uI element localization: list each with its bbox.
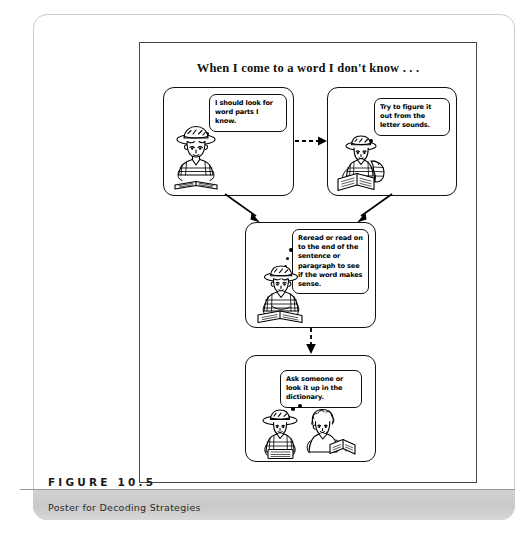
page-title: When I come to a word I don't know . . . [140, 61, 476, 76]
comic-panel-2: Try to figure it out from the letter sou… [327, 87, 457, 196]
figure-number: FIGURE 10.5 [48, 476, 156, 488]
poster-frame: When I come to a word I don't know . . .… [139, 42, 477, 483]
character-child-seated-reading-icon [254, 265, 320, 327]
page-card: When I come to a word I don't know . . .… [33, 14, 515, 520]
character-child-with-backpack-reading-icon [335, 135, 403, 193]
character-boy-reading-book-icon [169, 125, 231, 193]
comic-panel-1: I should look for word parts I know. [163, 87, 294, 196]
speech-bubble-2: Try to figure it out from the letter sou… [374, 98, 450, 136]
figure-caption: Poster for Decoding Strategies [48, 502, 201, 513]
speech-bubble-4: Ask someone or look it up in the diction… [280, 370, 362, 408]
arrow-panel1-to-panel2-icon [294, 133, 328, 149]
caption-divider [20, 489, 515, 490]
arrow-panel1-to-panel3-icon [224, 193, 270, 226]
arrow-panel3-to-panel4-icon [303, 327, 319, 357]
comic-panel-4: Ask someone or look it up in the diction… [245, 355, 376, 462]
thought-dot [286, 257, 289, 260]
arrow-panel2-to-panel3-icon [347, 193, 393, 226]
character-pair-asking-and-reading-icon [256, 408, 364, 460]
thought-dot [289, 248, 293, 252]
comic-panel-3: Reread or read on to the end of the sent… [245, 222, 376, 328]
